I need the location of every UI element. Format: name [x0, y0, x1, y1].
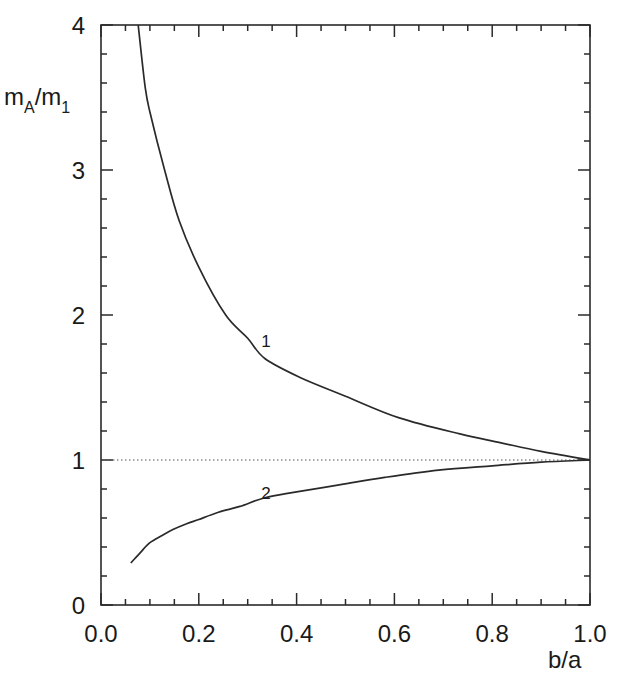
x-tick-label: 0.2: [182, 620, 215, 647]
tick-labels: 0.00.20.40.60.81.001234: [72, 12, 607, 647]
x-axis-title: b/a: [548, 646, 582, 673]
plot-frame: [101, 25, 590, 605]
curve-2: [131, 460, 590, 563]
y-tick-label: 0: [72, 592, 85, 619]
x-tick-label: 0.8: [476, 620, 509, 647]
y-tick-label: 3: [72, 157, 85, 184]
y-tick-label: 4: [72, 12, 85, 39]
chart: 0.00.20.40.60.81.001234 12 mA/m1 b/a: [0, 0, 618, 682]
x-tick-label: 0.6: [378, 620, 411, 647]
curve-label-1: 1: [261, 332, 270, 351]
y-axis-title: mA/m1: [4, 83, 70, 116]
y-tick-label: 2: [72, 302, 85, 329]
x-tick-label: 1.0: [573, 620, 606, 647]
curve-label-2: 2: [261, 484, 270, 503]
x-tick-label: 0.0: [84, 620, 117, 647]
x-tick-label: 0.4: [280, 620, 313, 647]
curves: 12: [131, 25, 590, 563]
curve-1: [138, 25, 590, 460]
axis-ticks: [101, 25, 590, 605]
y-tick-label: 1: [72, 447, 85, 474]
